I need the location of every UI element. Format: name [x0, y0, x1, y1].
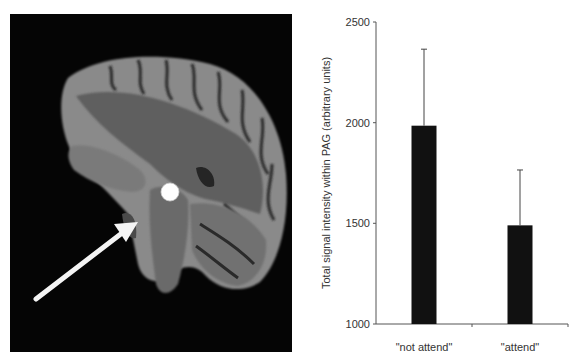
bar-chart: 2500 2000 1500 1000 "not attend" "attend… [0, 0, 578, 364]
bar-1 [508, 225, 533, 324]
category-label-attend: "attend" [501, 341, 539, 353]
bars-group [412, 49, 533, 324]
bar-0 [412, 126, 437, 324]
category-label-not-attend: "not attend" [396, 341, 453, 353]
ytick-label-1000: 1000 [346, 318, 370, 330]
y-ticks: 2500 2000 1500 1000 [346, 16, 376, 330]
ytick-label-2500: 2500 [346, 16, 370, 28]
ytick-label-2000: 2000 [346, 117, 370, 129]
y-axis-label: Total signal intensity within PAG (arbit… [320, 57, 332, 289]
ytick-label-1500: 1500 [346, 217, 370, 229]
